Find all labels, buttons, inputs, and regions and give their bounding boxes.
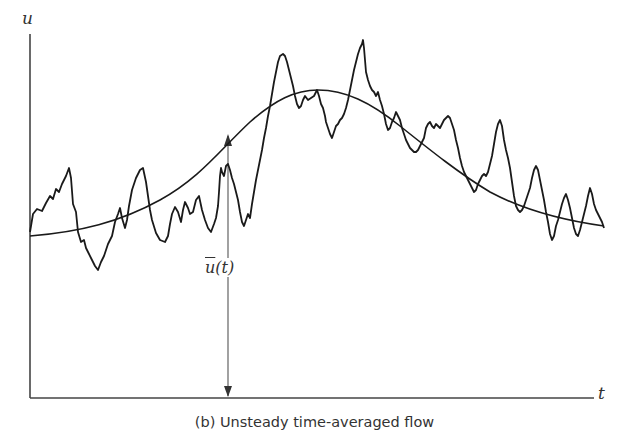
mean-curve: [30, 90, 604, 236]
mean-symbol: u: [205, 258, 215, 277]
flow-diagram: [0, 0, 629, 448]
instantaneous-signal: [30, 40, 604, 270]
x-axis-label: t: [598, 383, 605, 403]
mean-label: u(t): [204, 258, 235, 277]
y-axis-label: u: [22, 8, 33, 28]
mean-argument: (t): [215, 258, 234, 277]
figure-caption: (b) Unsteady time-averaged flow: [0, 414, 629, 430]
arrow-head-down-icon: [224, 386, 232, 397]
